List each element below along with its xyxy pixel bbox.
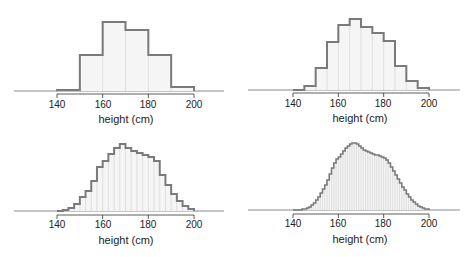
tick-label-180: 180 <box>375 98 392 109</box>
histogram-bar <box>338 25 349 90</box>
histogram-bar <box>103 161 109 211</box>
tick-label-140: 140 <box>49 219 66 230</box>
histogram-bar <box>126 148 132 211</box>
histogram-bar <box>126 30 149 91</box>
histogram-bar <box>80 55 103 91</box>
histogram-panel-bottom-left: 140 160 180 200 height (cm) <box>0 128 237 256</box>
histogram-panel-top-left: 140 160 180 200 height (cm) <box>0 0 237 128</box>
histogram-bar <box>103 22 126 91</box>
histogram-bar <box>372 33 383 90</box>
histogram-panel-bottom-right: 140 160 180 200 height (cm) <box>238 128 475 256</box>
histogram-bar <box>131 151 137 211</box>
tick-label-180: 180 <box>375 218 392 229</box>
histogram-bar <box>148 157 154 211</box>
histogram-bar <box>148 55 171 91</box>
histogram-bar <box>108 154 114 211</box>
histogram-panel-top-right: 140 160 180 200 height (cm) <box>238 0 475 128</box>
histogram-bar <box>361 27 372 90</box>
tick-label-200: 200 <box>421 218 438 229</box>
histogram-plot <box>238 0 475 128</box>
tick-label-200: 200 <box>186 99 203 110</box>
tick-label-140: 140 <box>49 99 66 110</box>
histogram-bar <box>406 81 417 90</box>
tick-label-160: 160 <box>95 219 112 230</box>
x-axis-title: height (cm) <box>332 233 387 245</box>
histogram-bar <box>384 41 395 90</box>
tick-label-200: 200 <box>421 98 438 109</box>
histogram-bar <box>395 66 406 90</box>
histogram-bar <box>327 42 338 90</box>
x-axis-title: height (cm) <box>332 112 387 124</box>
x-axis-title: height (cm) <box>98 234 153 246</box>
histogram-bar <box>137 153 143 211</box>
tick-label-140: 140 <box>285 218 302 229</box>
x-axis-title: height (cm) <box>98 113 153 125</box>
histogram-bar <box>120 144 126 211</box>
histogram-bar <box>350 19 361 90</box>
tick-label-200: 200 <box>186 219 203 230</box>
tick-label-160: 160 <box>95 99 112 110</box>
tick-label-180: 180 <box>140 99 157 110</box>
tick-label-180: 180 <box>140 219 157 230</box>
tick-label-160: 160 <box>330 98 347 109</box>
tick-label-160: 160 <box>330 218 347 229</box>
histogram-bar <box>114 148 120 211</box>
histogram-bar <box>316 68 327 90</box>
histogram-bar <box>143 155 149 211</box>
tick-label-140: 140 <box>285 98 302 109</box>
